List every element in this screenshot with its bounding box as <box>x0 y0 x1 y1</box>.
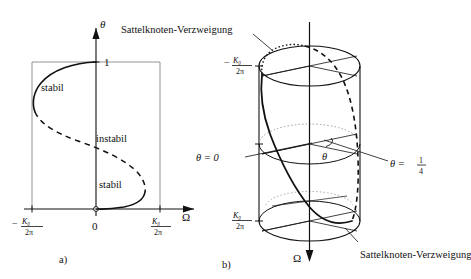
panel-a-label-instabil: instabil <box>96 133 127 144</box>
panel-b-angle-label: θ <box>322 151 327 162</box>
panel-a-tick-left-denominator: 2π <box>25 228 33 237</box>
panel-a-tick-left-sign: − <box>12 218 18 229</box>
panel-b-omega-label: Ω <box>293 252 301 264</box>
panel-a-tick-right-numerator: K₀ <box>151 217 160 226</box>
panel-b-annotation-top: Sattelknoten-Verzweigung <box>121 24 233 35</box>
panel-b-tick-top-numerator: K₀ <box>232 56 241 65</box>
panel-b-key: b) <box>222 259 231 271</box>
panel-b-tick-top-sign: − <box>224 57 230 68</box>
panel-a-x-axis-label: Ω <box>182 211 190 223</box>
panel-b-annotation-bottom: Sattelknoten-Verzweigung <box>360 249 471 260</box>
panel-a-key: a) <box>59 254 68 266</box>
panel-a-tick-right-denominator: 2π <box>154 228 162 237</box>
panel-b-tick-bottom-numerator: K₀ <box>232 211 241 220</box>
panel-a-tick-label-one: 1 <box>104 56 110 68</box>
panel-b-theta-zero-label: θ = 0 <box>196 152 219 163</box>
figure-container: θ Ω 1 0 − K₀ 2π K₀ 2π stabil instabil st… <box>0 0 471 279</box>
panel-a-y-axis-label: θ <box>100 18 106 30</box>
panel-a-tick-left-numerator: K₀ <box>21 217 30 226</box>
panel-b-theta-quarter-denominator: 4 <box>419 167 423 176</box>
panel-b-theta-quarter-lhs: θ = <box>390 158 405 169</box>
panel-b-tick-top-denominator: 2π <box>236 67 244 76</box>
panel-a-label-stabil-lower: stabil <box>99 179 122 190</box>
figure-background <box>0 0 471 279</box>
bifurcation-figure: θ Ω 1 0 − K₀ 2π K₀ 2π stabil instabil st… <box>0 0 471 279</box>
panel-a-label-stabil-upper: stabil <box>41 82 64 93</box>
panel-b-theta-quarter-numerator: 1 <box>419 156 423 165</box>
panel-a-tick-label-zero: 0 <box>92 220 98 232</box>
panel-b-tick-bottom-denominator: 2π <box>236 222 244 231</box>
